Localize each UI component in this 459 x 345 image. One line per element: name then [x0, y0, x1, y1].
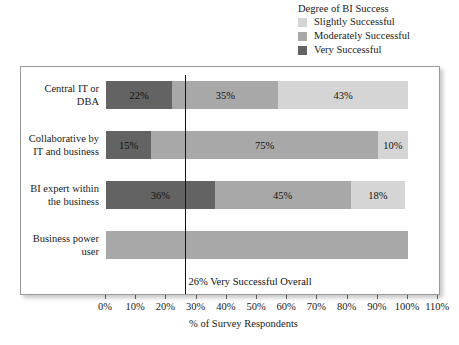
reference-line — [185, 75, 186, 294]
legend-item: Slightly Successful — [284, 15, 459, 29]
legend-swatch-icon — [298, 46, 307, 55]
bar-segment-value: 36% — [151, 190, 170, 201]
category-label: Central IT orDBA — [21, 82, 99, 108]
x-axis-tick-label: 100% — [395, 300, 420, 313]
stacked-bar — [106, 231, 408, 259]
bar-segment-value: 22% — [130, 90, 149, 101]
plot-area: Central IT orDBA22%35%43%Collaborative b… — [21, 67, 439, 294]
x-axis-tick-label: 70% — [307, 300, 326, 313]
bar-segment-value: 35% — [216, 90, 235, 101]
bar-segment — [106, 231, 408, 259]
category-label: BI expert withinthe business — [21, 182, 99, 208]
legend-entries: Slightly SuccessfulModerately Successful… — [284, 15, 459, 57]
stacked-bar: 22%35%43% — [106, 81, 408, 109]
x-axis-tick-label: 40% — [216, 300, 235, 313]
x-axis-tick — [196, 295, 197, 299]
stacked-bar: 15%75%10% — [106, 131, 408, 159]
chart-panel: Central IT orDBA22%35%43%Collaborative b… — [20, 66, 440, 295]
x-axis-tick-label: 30% — [186, 300, 205, 313]
x-axis-tick — [437, 295, 438, 299]
bar-segment-value: 43% — [333, 90, 352, 101]
bar-segment: 15% — [106, 131, 151, 159]
bar-row: Business poweruser — [21, 231, 439, 259]
x-axis-tick-label: 50% — [246, 300, 265, 313]
legend-item-label: Slightly Successful — [314, 15, 395, 29]
bar-segment: 22% — [106, 81, 172, 109]
bar-segment-value: 10% — [383, 140, 402, 151]
legend-item: Very Successful — [284, 43, 459, 57]
x-axis-tick — [135, 295, 136, 299]
bar-row: BI expert withinthe business36%45%18% — [21, 181, 439, 209]
x-axis-tick-label: 10% — [126, 300, 145, 313]
bar-row: Collaborative byIT and business15%75%10% — [21, 131, 439, 159]
category-label: Collaborative byIT and business — [21, 132, 99, 158]
x-axis-tick-label: 80% — [337, 300, 356, 313]
x-axis-tick-label: 20% — [156, 300, 175, 313]
x-axis-tick-label: 90% — [367, 300, 386, 313]
stacked-bar: 36%45%18% — [106, 181, 405, 209]
legend: Degree of BI Success Slightly Successful… — [284, 2, 459, 57]
x-axis-tick — [105, 295, 106, 299]
x-axis: 0%10%20%30%40%50%60%70%80%90%100%110% % … — [0, 295, 459, 345]
x-axis-tick-label: 110% — [425, 300, 449, 313]
bar-segment: 10% — [378, 131, 408, 159]
x-axis-tick — [316, 295, 317, 299]
legend-swatch-icon — [298, 32, 307, 41]
bar-segment-value: 75% — [255, 140, 274, 151]
x-axis-tick — [286, 295, 287, 299]
x-axis-tick — [347, 295, 348, 299]
reference-line-label: 26% Very Successful Overall — [189, 275, 312, 288]
legend-title: Degree of BI Success — [284, 2, 459, 15]
x-axis-title: % of Survey Respondents — [0, 318, 459, 329]
bar-segment-value: 15% — [119, 140, 138, 151]
legend-item-label: Moderately Successful — [314, 29, 410, 43]
bar-segment: 45% — [215, 181, 351, 209]
legend-item: Moderately Successful — [284, 29, 459, 43]
x-axis-tick — [407, 295, 408, 299]
x-axis-tick-label: 60% — [277, 300, 296, 313]
x-axis-tick — [226, 295, 227, 299]
bar-row: Central IT orDBA22%35%43% — [21, 81, 439, 109]
bar-segment: 35% — [172, 81, 278, 109]
bar-segment-value: 45% — [273, 190, 292, 201]
bar-segment: 43% — [278, 81, 408, 109]
x-axis-tick — [377, 295, 378, 299]
bar-segment: 18% — [351, 181, 405, 209]
bar-segment-value: 18% — [368, 190, 387, 201]
legend-swatch-icon — [298, 18, 307, 27]
category-label: Business poweruser — [21, 232, 99, 258]
bar-segment: 36% — [106, 181, 215, 209]
x-axis-tick — [165, 295, 166, 299]
x-axis-tick-label: 0% — [98, 300, 112, 313]
x-axis-tick — [256, 295, 257, 299]
legend-item-label: Very Successful — [314, 43, 381, 57]
